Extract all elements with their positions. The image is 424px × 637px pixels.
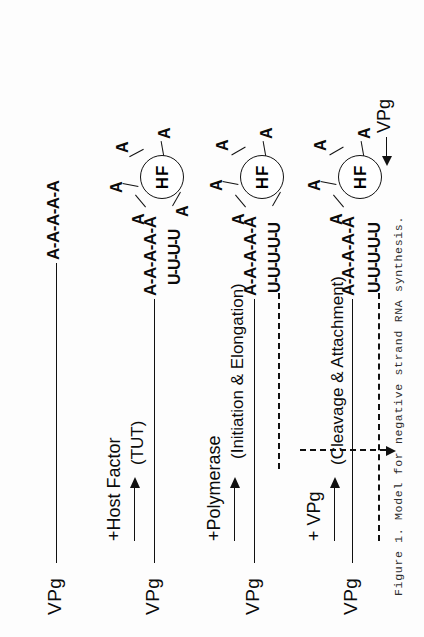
host-factor-label-3: HF xyxy=(254,165,271,190)
host-factor-circle-3: HF xyxy=(240,155,284,199)
radial-base-2-5: A xyxy=(174,205,192,217)
radial-tick-4-c xyxy=(329,147,343,156)
host-factor-circle-2: HF xyxy=(140,155,184,199)
radial-base-4-1: A xyxy=(328,213,346,225)
nascent-sequence-3: U-U-U-U-U xyxy=(266,223,284,293)
radial-tick-2-a xyxy=(135,195,146,208)
host-factor-circle-4: HF xyxy=(338,155,382,199)
template-sequence-2: A-A-A-A-A xyxy=(141,216,161,296)
vpg-label-3: VPg xyxy=(242,578,264,615)
template-strand-line-4 xyxy=(352,299,353,563)
vpg-attachment-label: VPg xyxy=(374,99,395,133)
transition-label-2: +Polymerase xyxy=(204,435,225,541)
template-sequence-3: A-A-A-A-A xyxy=(241,216,261,296)
radial-tick-3-a xyxy=(235,195,246,208)
template-sequence-4: A-A-A-A-A xyxy=(339,216,359,296)
template-sequence-1: A-A-A-A-A xyxy=(44,180,64,260)
vpg-label-1: VPg xyxy=(44,578,66,615)
rotated-diagram-canvas: VPg A-A-A-A-A +Host Factor (TUT) VPg A-A… xyxy=(0,0,424,637)
radial-tick-3-c xyxy=(231,147,245,156)
radial-base-2-3: A xyxy=(114,141,132,153)
radial-base-2-4: A xyxy=(156,127,174,139)
radial-base-2-1: A xyxy=(130,213,148,225)
vpg-label-4: VPg xyxy=(340,578,362,615)
strand-row-2: VPg A-A-A-A-A U-U-U-U HF A A A A A xyxy=(124,0,224,637)
host-factor-label-2: HF xyxy=(154,165,171,190)
host-factor-label-4: HF xyxy=(352,165,369,190)
radial-base-3-2: A xyxy=(208,179,226,191)
transition-label-1: +Host Factor xyxy=(104,437,125,541)
radial-base-4-3: A xyxy=(312,139,330,151)
radial-base-3-3: A xyxy=(214,139,232,151)
radial-base-4-4: A xyxy=(356,127,374,139)
radial-base-4-2: A xyxy=(306,179,324,191)
nascent-strand-dashed-4 xyxy=(378,293,380,541)
strand-row-1: VPg A-A-A-A-A xyxy=(26,0,126,637)
template-strand-line-2 xyxy=(154,299,155,563)
radial-base-2-2: A xyxy=(108,181,126,193)
template-strand-line-1 xyxy=(56,263,57,563)
nascent-strand-dashed-3 xyxy=(278,293,280,469)
figure-caption: Figure 1. Model for negative strand RNA … xyxy=(392,216,405,596)
vpg-attachment-arrow xyxy=(386,137,387,163)
radial-tick-4-a xyxy=(333,195,344,208)
template-strand-line-3 xyxy=(254,299,255,563)
nascent-sequence-4: U-U-U-U-U xyxy=(366,223,384,293)
strand-row-4: VPg A-A-A-A-A U-U-U-U-U HF A A A A VPg xyxy=(322,0,422,637)
diagram-stage: VPg A-A-A-A-A +Host Factor (TUT) VPg A-A… xyxy=(0,0,424,637)
vpg-label-2: VPg xyxy=(142,578,164,615)
nascent-sequence-2: U-U-U-U xyxy=(166,230,184,285)
radial-base-3-4: A xyxy=(258,127,276,139)
strand-row-3: VPg A-A-A-A-A U-U-U-U-U HF A A A A xyxy=(224,0,324,637)
figure-panel: VPg A-A-A-A-A +Host Factor (TUT) VPg A-A… xyxy=(0,0,424,637)
radial-base-3-1: A xyxy=(230,213,248,225)
